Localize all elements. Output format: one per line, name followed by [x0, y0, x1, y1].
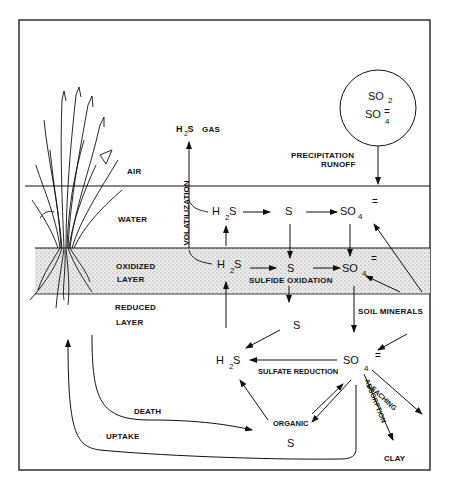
so4-reduced: SO4=	[343, 355, 359, 366]
h2s-reduced: H2S	[216, 355, 240, 366]
circle-so2: SO2	[368, 91, 384, 102]
reduced-label-1: REDUCED	[115, 304, 156, 312]
so4-water: SO4=	[340, 206, 356, 217]
oxidized-label-1: OXIDIZED	[116, 263, 155, 271]
uptake-label: UPTAKE	[106, 433, 140, 441]
h2s-water: H2S	[212, 206, 236, 217]
organic-label: ORGANIC	[273, 420, 308, 428]
air-label: AIR	[127, 168, 141, 176]
s-water: S	[285, 206, 292, 217]
water-label: WATER	[118, 216, 147, 224]
arrow-organic-to-h2s	[240, 380, 268, 420]
arrow-s-to-h2s-reduced	[246, 330, 280, 348]
s-oxidized: S	[287, 263, 294, 274]
runoff-label: RUNOFF	[321, 161, 356, 169]
arrow-organic-to-so4	[312, 384, 343, 414]
h2s-oxidized: H2S	[217, 259, 241, 270]
death-flow-arrow	[92, 335, 252, 430]
precipitation-label: PRECIPITATION	[291, 152, 354, 160]
volatilization-label: VOLATILIZATION	[183, 173, 191, 253]
sulfate-reduction-label: SULFATE REDUCTION	[258, 368, 338, 376]
diagram-frame	[19, 20, 430, 470]
arrow-so4-to-organic	[312, 380, 351, 422]
gas-label: GAS	[202, 126, 220, 134]
circle-so4: SO=4	[365, 109, 381, 120]
death-label: DEATH	[134, 408, 161, 416]
so4-oxidized: SO4=	[342, 263, 358, 274]
uptake-flow-arrow	[68, 340, 356, 459]
clay-label: CLAY	[384, 455, 405, 463]
sulfide-oxidation-label: SULFIDE OXIDATION	[249, 277, 333, 285]
s-reduced: S	[293, 320, 300, 331]
organic-s-label: S	[287, 438, 294, 449]
h2s-gas-label: H2S	[176, 125, 194, 134]
oxidized-label-2: LAYER	[117, 276, 144, 284]
reduced-label-2: LAYER	[116, 319, 143, 327]
arrow-minerals-to-so4-reduced	[378, 334, 407, 350]
soil-minerals-label: SOIL MINERALS	[358, 308, 423, 316]
